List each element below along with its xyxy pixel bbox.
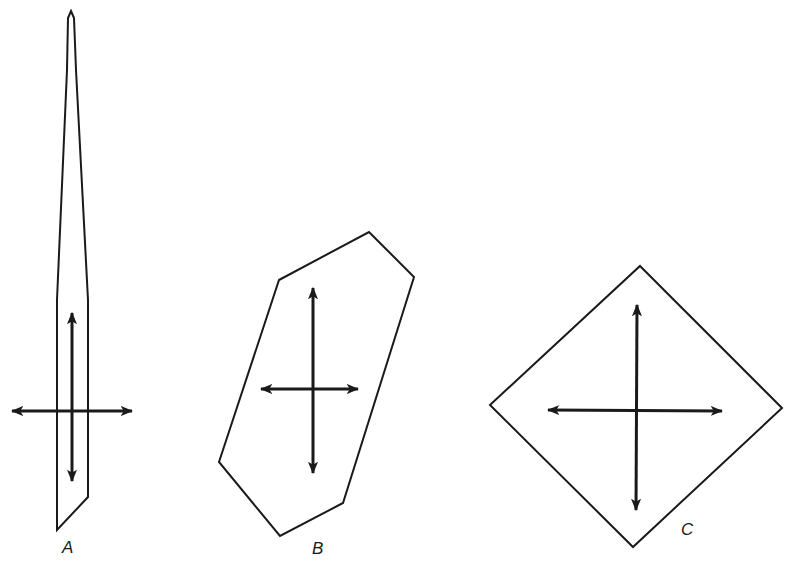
shape-b: B (219, 232, 414, 558)
shape-c-horizontal-double-arrow-icon (548, 410, 722, 411)
crystal-diagram: A B C (0, 0, 791, 563)
shape-a: A (12, 11, 132, 557)
shape-c-label: C (681, 520, 694, 539)
shape-c: C (490, 266, 782, 547)
shape-a-label: A (61, 538, 73, 557)
shape-b-outline (219, 232, 414, 536)
shape-b-label: B (312, 539, 323, 558)
shape-c-vertical-double-arrow-icon (636, 305, 637, 510)
